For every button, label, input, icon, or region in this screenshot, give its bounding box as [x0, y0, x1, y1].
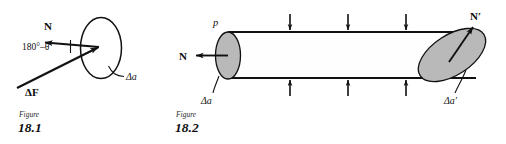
figure-18-2-group: p N N′ Δa Δa′ Figure 18.2 — [175, 10, 495, 135]
top-pressure-arrows — [290, 14, 406, 30]
figure-18-1-caption-number: 18.1 — [18, 120, 42, 135]
left-area-leader-line — [213, 76, 219, 93]
figure-18-1-group: N 180°–θ ΔF Δa Figure 18.1 — [17, 18, 137, 136]
left-area-label: Δa — [200, 95, 212, 106]
force-label: ΔF — [25, 86, 39, 98]
right-normal-label: N′ — [470, 10, 481, 22]
pressure-label: p — [212, 17, 218, 28]
figure-18-2-caption-number: 18.2 — [175, 120, 199, 135]
right-area-label: Δa′ — [443, 95, 458, 106]
figure-18-2-caption-word: Figure — [175, 110, 197, 119]
angle-label: 180°–θ — [22, 42, 50, 52]
area-element-ellipse — [81, 18, 122, 79]
figure-pair-illustration: N 180°–θ ΔF Δa Figure 18.1 — [0, 0, 506, 144]
figure-18-1-caption-word: Figure — [18, 110, 40, 119]
figure-sheet: N 180°–θ ΔF Δa Figure 18.1 — [0, 0, 506, 144]
left-normal-label: N — [179, 50, 187, 62]
area-label: Δa — [125, 71, 137, 82]
bottom-pressure-arrows — [290, 80, 406, 96]
normal-vector-arrow — [45, 43, 99, 48]
normal-label: N — [44, 20, 52, 32]
